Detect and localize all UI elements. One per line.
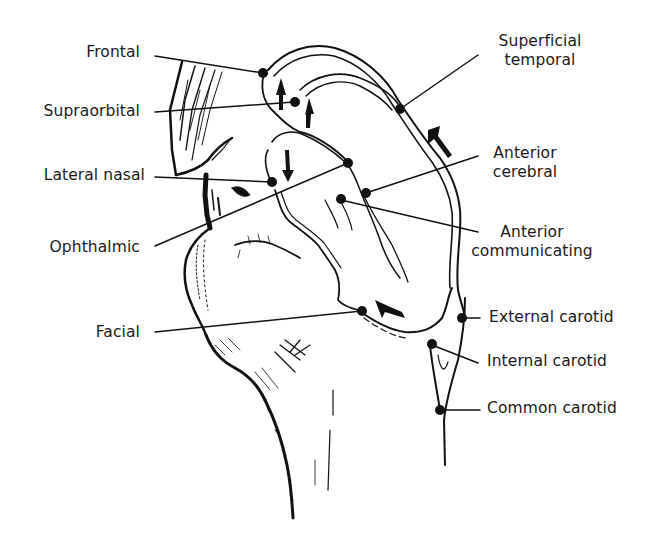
label-frontal: Frontal [86, 43, 140, 62]
supraorbital-dot [290, 97, 300, 107]
internal-carotid-dot [427, 339, 437, 349]
facial-dot [357, 306, 367, 316]
label-superficial-temporal: Superficial temporal [480, 32, 600, 70]
label-anterior-communicating: Anterior communicating [462, 223, 602, 261]
anterior-communicating-dot [336, 194, 346, 204]
external-carotid-dot [457, 313, 467, 323]
label-ophthalmic: Ophthalmic [50, 238, 141, 257]
frontal-dot [258, 68, 268, 78]
label-internal-carotid: Internal carotid [487, 352, 607, 371]
label-supraorbital: Supraorbital [44, 102, 140, 121]
lateral-nasal-dot [267, 177, 277, 187]
pulse-point-dots [258, 68, 467, 415]
label-anterior-cerebral: Anterior cerebral [475, 144, 575, 182]
label-external-carotid: External carotid [489, 308, 614, 327]
diagram-canvas [0, 0, 661, 542]
superficial-temporal-dot [395, 104, 405, 114]
ophthalmic-dot [343, 158, 353, 168]
anterior-cerebral-dot [361, 188, 371, 198]
label-common-carotid: Common carotid [487, 399, 617, 418]
face-profile-drawing [170, 62, 333, 518]
label-facial: Facial [96, 323, 140, 342]
vessel-outer-loop [268, 46, 465, 318]
vessel-carotid [430, 298, 465, 465]
label-lateral-nasal: Lateral nasal [44, 166, 145, 185]
common-carotid-dot [435, 405, 445, 415]
